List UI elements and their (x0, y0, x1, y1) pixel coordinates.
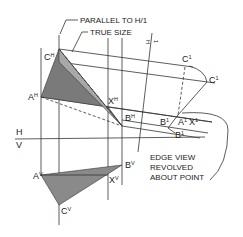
fold-line-h1 (138, 33, 152, 152)
fold-label-h1-1: 1 (153, 40, 159, 43)
label-b1-revolved: B1 (175, 130, 184, 140)
label-xh: XH (108, 96, 118, 106)
label-x1: X1 (189, 117, 198, 127)
callout-parallel: PARALLEL TO H/1 (80, 16, 148, 25)
descriptive-geometry-diagram: PARALLEL TO H/1 TRUE SIZE EDGE VIEW REVO… (0, 0, 243, 237)
callout-true-size: TRUE SIZE (90, 28, 132, 37)
label-a1: A1 (178, 117, 187, 127)
fold-label-v: V (16, 140, 22, 150)
label-bv: BV (125, 160, 135, 170)
label-c1: C1 (209, 75, 219, 85)
label-av: AV (33, 171, 43, 181)
triangle-vertical-view (41, 165, 122, 205)
label-ah: AH (28, 92, 38, 102)
edge-view-line-2 (168, 115, 178, 128)
label-ch: CH (44, 52, 55, 62)
callout-edge-view-2: REVOLVED (150, 163, 193, 172)
triangle-horizontal-view (41, 49, 122, 126)
edge-view-line-3 (168, 128, 175, 133)
true-size-leader (72, 32, 88, 52)
projector-b-aux-2 (122, 126, 200, 138)
callout-edge-view-3: ABOUT POINT (150, 173, 204, 182)
label-c1-revolved: C1 (182, 54, 192, 64)
label-xv: XV (109, 175, 119, 185)
callout-edge-view-1: EDGE VIEW (150, 153, 196, 162)
label-cv: CV (61, 206, 72, 216)
parallel-leader (60, 20, 78, 34)
fold-label-h1-h: H (145, 40, 151, 44)
fold-label-h: H (16, 127, 23, 137)
label-b1: B1 (160, 117, 169, 127)
projector-c-aux (59, 49, 193, 67)
